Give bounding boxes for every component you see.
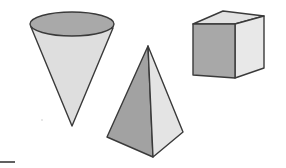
cube-front-face	[193, 24, 235, 78]
speck-mark	[41, 119, 42, 120]
pyramid-shape	[107, 46, 183, 157]
cone-shape	[30, 12, 114, 126]
pyramid-right-face	[148, 46, 183, 157]
geometric-solids-figure	[0, 0, 286, 168]
cube-right-face	[235, 16, 264, 78]
pyramid-left-face	[107, 46, 153, 157]
cone-body	[31, 27, 113, 126]
cone-top-ellipse	[30, 12, 114, 36]
cube-shape	[193, 11, 264, 78]
